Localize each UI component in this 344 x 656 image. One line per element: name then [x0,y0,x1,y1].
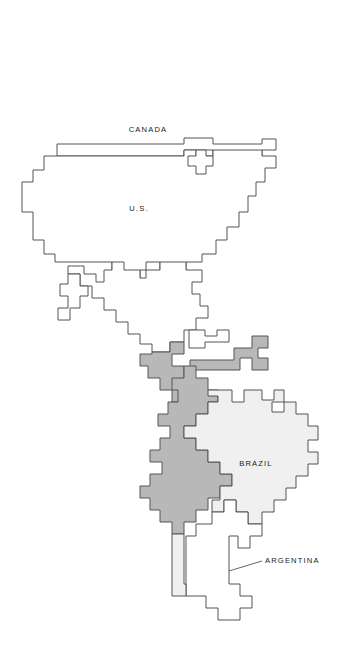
map-label-brazil: BRAZIL [239,459,273,468]
map-label-us: U.S. [129,204,148,213]
region-shape-chile-strip[interactable] [172,534,186,596]
map-label-argentina: ARGENTINA [265,556,320,565]
map-canvas: CANADAU.S.BRAZILARGENTINA [0,0,344,656]
americas-map-figure: CANADAU.S.BRAZILARGENTINA [0,0,344,656]
map-label-canada: CANADA [129,125,168,134]
